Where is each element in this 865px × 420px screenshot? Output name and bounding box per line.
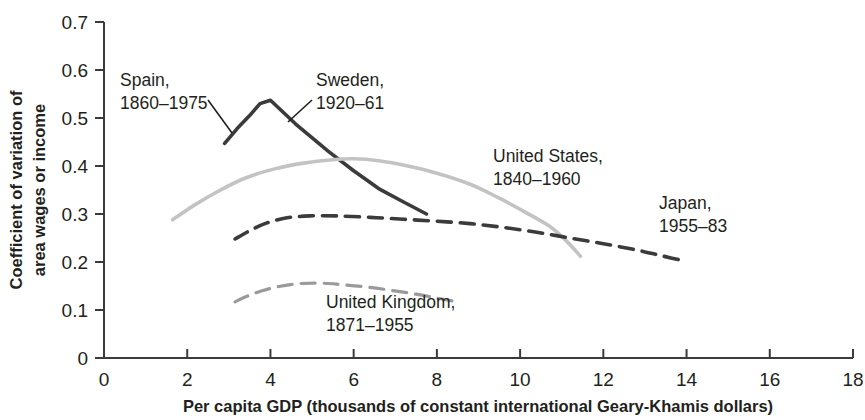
y-axis-title: Coefficient of variation of area wages o… bbox=[7, 90, 48, 289]
series-line bbox=[225, 100, 427, 214]
series-annotation-spain: Spain,1860–1975 bbox=[120, 70, 208, 113]
series-layer bbox=[173, 100, 687, 302]
x-tick-label: 16 bbox=[759, 369, 780, 390]
spain-leader-line bbox=[208, 100, 232, 133]
annotation-line1: Spain, bbox=[120, 70, 170, 90]
y-axis-title-line2: area wages or income bbox=[30, 104, 48, 276]
x-tick-label: 12 bbox=[593, 369, 614, 390]
y-axis-title-line1: Coefficient of variation of bbox=[7, 90, 25, 289]
annotation-line2: 1955–83 bbox=[659, 216, 727, 236]
y-tick-label: 0.6 bbox=[62, 60, 88, 81]
x-tick-label: 8 bbox=[432, 369, 443, 390]
x-tick-label: 18 bbox=[842, 369, 863, 390]
x-tick-label: 14 bbox=[676, 369, 698, 390]
series-annotation-united-kingdom: United Kingdom,1871–1955 bbox=[326, 292, 455, 335]
series-annotation-japan: Japan,1955–83 bbox=[659, 193, 727, 236]
x-tick-label: 10 bbox=[510, 369, 531, 390]
x-axis-title: Per capita GDP (thousands of constant in… bbox=[183, 397, 773, 415]
annotation-line2: 1920–61 bbox=[316, 93, 384, 113]
x-tick-label: 6 bbox=[348, 369, 359, 390]
annotation-line2: 1840–1960 bbox=[493, 169, 581, 189]
annotation-line1: Japan, bbox=[659, 193, 712, 213]
annotation-line1: Sweden, bbox=[316, 70, 384, 90]
x-tick-label: 4 bbox=[265, 369, 276, 390]
chart-figure: 00.10.20.30.40.50.60.7 024681012141618 C… bbox=[0, 0, 865, 420]
x-tick-label: 2 bbox=[182, 369, 193, 390]
series-annotations: Spain,1860–1975Sweden,1920–61United Stat… bbox=[120, 70, 727, 335]
chart-canvas: 00.10.20.30.40.50.60.7 024681012141618 C… bbox=[0, 0, 865, 420]
annotation-line2: 1871–1955 bbox=[326, 315, 414, 335]
series-annotation-sweden: Sweden,1920–61 bbox=[316, 70, 384, 113]
annotation-line1: United Kingdom, bbox=[326, 292, 455, 312]
y-tick-label: 0.5 bbox=[62, 108, 88, 129]
x-axis-tick-labels: 024681012141618 bbox=[99, 369, 864, 390]
y-tick-label: 0.7 bbox=[62, 12, 88, 33]
x-axis-ticks bbox=[104, 349, 853, 358]
y-tick-label: 0.4 bbox=[62, 156, 89, 177]
series-line bbox=[235, 216, 686, 262]
y-axis-tick-labels: 00.10.20.30.40.50.60.7 bbox=[62, 12, 89, 369]
sweden-leader-line bbox=[288, 100, 312, 122]
y-tick-label: 0.3 bbox=[62, 204, 88, 225]
y-axis-ticks bbox=[95, 22, 104, 358]
axes-layer bbox=[95, 22, 853, 358]
annotation-line1: United States, bbox=[493, 146, 603, 166]
y-tick-label: 0.1 bbox=[62, 300, 88, 321]
annotation-line2: 1860–1975 bbox=[120, 93, 208, 113]
x-tick-label: 0 bbox=[99, 369, 110, 390]
y-tick-label: 0 bbox=[77, 348, 88, 369]
y-tick-label: 0.2 bbox=[62, 252, 88, 273]
series-annotation-united-states: United States,1840–1960 bbox=[493, 146, 603, 189]
